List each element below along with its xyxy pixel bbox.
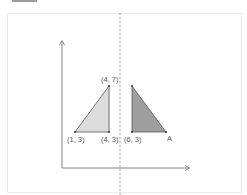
left-triangle [75, 86, 109, 132]
vertex-point [74, 131, 76, 133]
y-axis [60, 41, 65, 169]
coordinate-diagram: (4, 7) (1, 3) (4, 3) (6, 3) A [0, 0, 247, 195]
vertex-point [108, 131, 110, 133]
x-axis [62, 166, 190, 171]
label-6-3: (6, 3) [124, 135, 142, 144]
vertex-point [131, 85, 133, 87]
vertex-point [131, 131, 133, 133]
label-1-3: (1, 3) [67, 135, 85, 144]
vertex-point [165, 131, 167, 133]
label-a: A [167, 134, 172, 143]
label-4-7: (4, 7) [101, 75, 119, 84]
vertex-point [108, 85, 110, 87]
label-4-3: (4, 3) [101, 135, 119, 144]
right-triangle [132, 86, 166, 132]
